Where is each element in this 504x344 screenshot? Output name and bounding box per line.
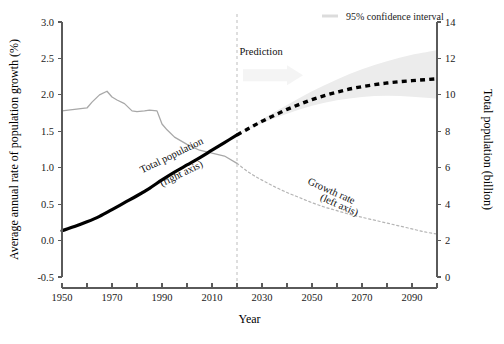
population-growth-chart: 3.02.52.01.51.00.50.0-0.5141210864201950…	[0, 0, 504, 344]
x-axis-tick-label: 2030	[252, 292, 273, 303]
x-axis-tick-label: 2050	[302, 292, 323, 303]
left-axis-tick-label: 2.5	[41, 53, 54, 64]
right-axis-tick-label: 4	[445, 199, 451, 210]
right-axis-tick-label: 14	[445, 17, 456, 28]
left-axis-title: Average annual rate of population growth…	[7, 39, 21, 260]
legend-label-confidence-interval: 95% confidence interval	[346, 11, 444, 22]
axes-group	[58, 22, 441, 288]
left-axis-tick-label: 3.0	[41, 17, 54, 28]
x-axis-tick-label: 2070	[352, 292, 373, 303]
x-axis-tick-label: 2090	[402, 292, 423, 303]
data-series-group	[62, 79, 437, 234]
left-axis-tick-label: 0.5	[41, 199, 54, 210]
left-axis-tick-label: 1.5	[41, 126, 54, 137]
figure-container: 3.02.52.01.51.00.50.0-0.5141210864201950…	[0, 0, 504, 344]
right-axis-tick-label: 0	[445, 272, 450, 283]
left-axis-tick-label: 0.0	[41, 235, 54, 246]
confidence-interval-band	[237, 50, 437, 135]
x-axis-title: Year	[238, 312, 260, 326]
right-axis-tick-label: 10	[445, 89, 456, 100]
right-axis-tick-label: 6	[445, 162, 450, 173]
x-axis-tick-label: 1950	[52, 292, 73, 303]
x-axis-tick-label: 2010	[202, 292, 223, 303]
left-axis-tick-label: 2.0	[41, 89, 54, 100]
left-axis-tick-label: 1.0	[41, 162, 54, 173]
prediction-arrow-icon	[243, 65, 303, 85]
prediction-label: Prediction	[240, 46, 284, 57]
x-axis-tick-label: 1970	[102, 292, 123, 303]
confidence-interval-area	[237, 50, 437, 135]
left-axis-tick-label: -0.5	[37, 272, 54, 283]
x-axis-tick-label: 1990	[152, 292, 173, 303]
legend: 95% confidence interval	[322, 11, 444, 22]
right-axis-tick-label: 2	[445, 235, 450, 246]
right-axis-title: Total population (billion)	[481, 89, 495, 210]
prediction-arrow-shape	[243, 65, 303, 85]
right-axis-tick-label: 8	[445, 126, 450, 137]
total-population-historical-line	[62, 135, 237, 231]
right-axis-tick-label: 12	[445, 53, 456, 64]
